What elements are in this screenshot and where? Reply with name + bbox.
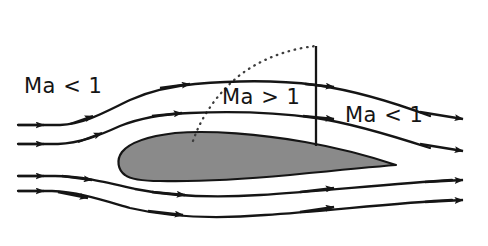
streamline-3-arrow-outlet [425, 180, 463, 182]
mach-label-downstream: Ma < 1 [345, 105, 423, 126]
airfoil-body [118, 132, 396, 181]
streamline-2-arrow-rise [78, 133, 102, 142]
streamline-2-arrow-crest [152, 113, 182, 116]
streamline-1-arrow-postshock [305, 84, 334, 87]
streamline-2-arrow-postshock [303, 116, 334, 119]
mach-label-upstream: Ma < 1 [24, 76, 102, 97]
streamline-3-arrow-mid [152, 192, 185, 195]
transonic-airfoil-diagram: Ma < 1 Ma > 1 Ma < 1 [0, 0, 488, 246]
streamline-1-arrow-rise [70, 116, 93, 124]
mach-label-supersonic: Ma > 1 [222, 87, 300, 108]
streamline-4-path [18, 191, 452, 217]
airfoil-outline [118, 132, 396, 181]
